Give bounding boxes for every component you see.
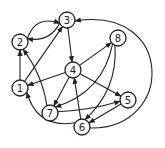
- edge-1-to-3: [25, 27, 63, 82]
- node-7: 7: [42, 105, 58, 121]
- node-1: 1: [12, 80, 28, 96]
- node-label: 5: [125, 95, 131, 106]
- edge-4-to-5: [80, 74, 121, 96]
- node-5: 5: [120, 92, 136, 108]
- node-label: 1: [17, 83, 23, 94]
- edge-5-to-6: [89, 104, 121, 123]
- node-label: 6: [79, 122, 85, 133]
- node-label: 8: [115, 33, 121, 44]
- edge-4-to-7: [54, 77, 69, 106]
- node-label: 4: [70, 65, 76, 76]
- edge-4-to-1: [28, 73, 66, 86]
- node-label: 7: [47, 108, 53, 119]
- node-label: 3: [64, 15, 70, 26]
- node-2: 2: [12, 34, 28, 50]
- node-6: 6: [74, 119, 90, 135]
- edges: [20, 20, 152, 128]
- node-4: 4: [65, 62, 81, 78]
- node-8: 8: [110, 30, 126, 46]
- edge-3-to-4: [68, 28, 72, 62]
- node-label: 2: [17, 37, 23, 48]
- directed-graph: 12345678: [0, 0, 165, 148]
- node-3: 3: [59, 12, 75, 28]
